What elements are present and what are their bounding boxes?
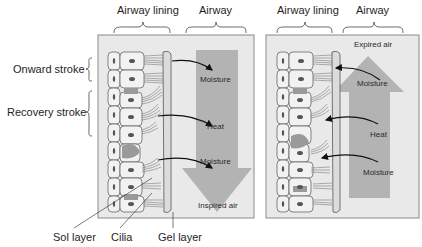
left-transfer-label-1: Moisture <box>200 75 231 84</box>
right-transfer-label-1: Moisture <box>357 79 388 88</box>
inspired-air-label: Inspired air <box>198 201 238 210</box>
right-transfer-label-3: Moisture <box>363 168 394 177</box>
left-panel <box>98 35 254 218</box>
right-panel <box>266 35 419 218</box>
expired-air-label: Expired air <box>354 40 392 49</box>
right-transfer-label-2: Heat <box>370 130 387 139</box>
header-braces <box>114 22 403 33</box>
side-braces <box>86 58 92 136</box>
left-transfer-label-2: Heat <box>207 122 224 131</box>
left-transfer-label-3: Moisture <box>200 157 231 166</box>
gel-layer-left <box>163 51 171 212</box>
gel-layer-right <box>332 51 340 212</box>
